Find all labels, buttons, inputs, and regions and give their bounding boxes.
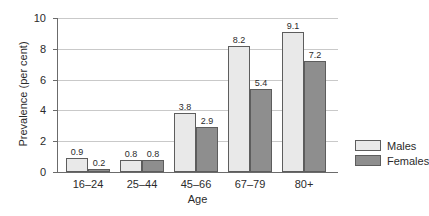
bar-females-4: 7.2 — [304, 61, 326, 172]
bar-males-0: 0.9 — [66, 158, 88, 172]
y-axis-tick: 10 — [53, 18, 57, 19]
x-axis-title: Age — [57, 193, 338, 205]
bar-value-label: 9.1 — [287, 21, 300, 31]
y-axis-tick: 8 — [53, 49, 57, 50]
bar-males-4: 9.1 — [282, 32, 304, 172]
legend-label-males: Males — [387, 140, 416, 152]
x-axis-category-label: 80+ — [295, 178, 314, 190]
y-axis-tick-label: 10 — [34, 12, 46, 24]
x-axis-category-label: 45–66 — [181, 178, 212, 190]
y-axis-tick: 4 — [53, 110, 57, 111]
x-axis-category-label: 25–44 — [127, 178, 158, 190]
legend-swatch-females-icon — [355, 155, 381, 166]
y-axis-tick-label: 2 — [40, 135, 46, 147]
x-axis-category-label: 67–79 — [235, 178, 266, 190]
bar-value-label: 3.8 — [179, 102, 192, 112]
y-axis-title: Prevalence (per cent) — [17, 9, 29, 179]
y-axis-tick-label: 8 — [40, 43, 46, 55]
bar-value-label: 7.2 — [309, 50, 322, 60]
plot-area: 0246810 0.90.20.80.83.82.98.25.49.17.2 1… — [57, 18, 337, 172]
legend-item-males: Males — [355, 139, 429, 152]
bar-value-label: 5.4 — [255, 78, 268, 88]
bar-value-label: 2.9 — [201, 116, 214, 126]
bar-females-2: 2.9 — [196, 127, 218, 172]
y-axis-tick-label: 0 — [40, 166, 46, 178]
y-axis-tick: 0 — [53, 172, 57, 173]
y-axis-tick: 2 — [53, 141, 57, 142]
legend-item-females: Females — [355, 154, 429, 167]
bar-males-2: 3.8 — [174, 113, 196, 172]
bar-value-label: 0.2 — [93, 158, 106, 168]
bar-value-label: 8.2 — [233, 35, 246, 45]
bar-females-3: 5.4 — [250, 89, 272, 172]
bar-value-label: 0.8 — [147, 149, 160, 159]
x-axis-line — [57, 172, 338, 173]
legend-swatch-males-icon — [355, 140, 381, 151]
bar-value-label: 0.9 — [71, 147, 84, 157]
legend: Males Females — [355, 139, 429, 169]
y-axis-line — [57, 18, 58, 173]
bar-males-3: 8.2 — [228, 46, 250, 172]
bar-males-1: 0.8 — [120, 160, 142, 172]
bar-females-1: 0.8 — [142, 160, 164, 172]
gridline — [58, 18, 338, 19]
y-axis-tick-label: 6 — [40, 74, 46, 86]
y-axis-tick: 6 — [53, 80, 57, 81]
bar-females-0: 0.2 — [88, 169, 110, 172]
x-axis-category-label: 16–24 — [73, 178, 104, 190]
legend-label-females: Females — [387, 155, 429, 167]
y-axis-tick-label: 4 — [40, 104, 46, 116]
bar-value-label: 0.8 — [125, 149, 138, 159]
